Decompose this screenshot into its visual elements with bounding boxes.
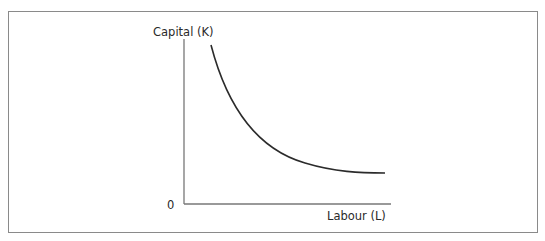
origin-label: 0 — [167, 200, 174, 212]
isoquant-curve — [211, 45, 385, 173]
x-axis-label: Labour (L) — [327, 211, 386, 223]
isoquant-chart — [0, 0, 545, 241]
y-axis-label: Capital (K) — [153, 27, 214, 39]
